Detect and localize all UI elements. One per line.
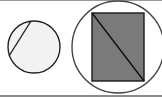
right-panel bbox=[72, 1, 162, 93]
bottom-border bbox=[0, 95, 162, 97]
diagram-frame bbox=[0, 0, 162, 97]
diagram-canvas bbox=[0, 0, 162, 97]
left-panel bbox=[8, 21, 60, 73]
circle-shape bbox=[8, 21, 60, 73]
